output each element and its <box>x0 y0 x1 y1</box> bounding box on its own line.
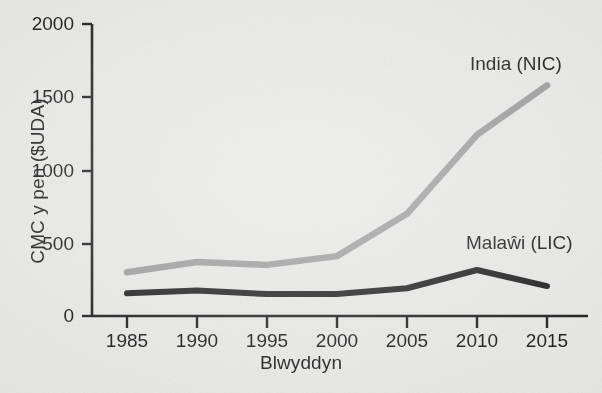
series-line-india <box>127 85 547 272</box>
series-line-malawi <box>127 270 547 294</box>
line-chart <box>0 0 602 393</box>
chart-axes <box>82 24 588 328</box>
